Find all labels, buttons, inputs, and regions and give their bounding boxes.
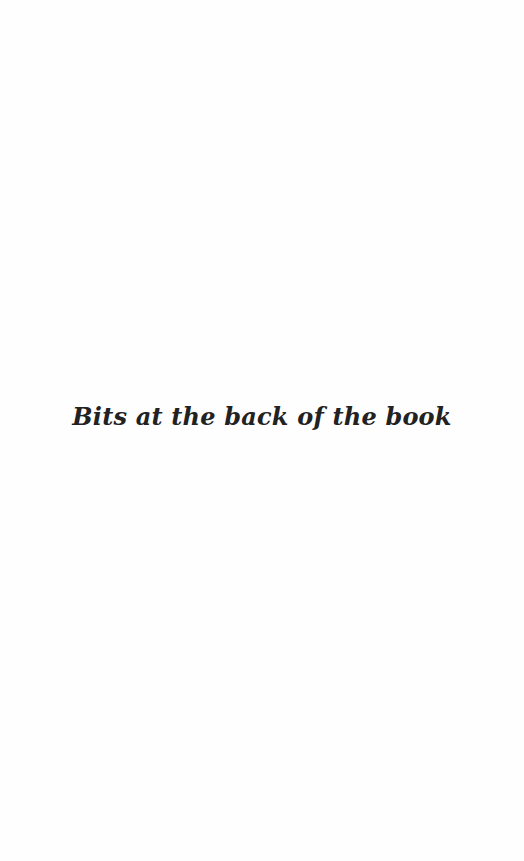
book-page: Bits at the back of the book: [0, 0, 524, 861]
section-title: Bits at the back of the book: [0, 400, 524, 434]
